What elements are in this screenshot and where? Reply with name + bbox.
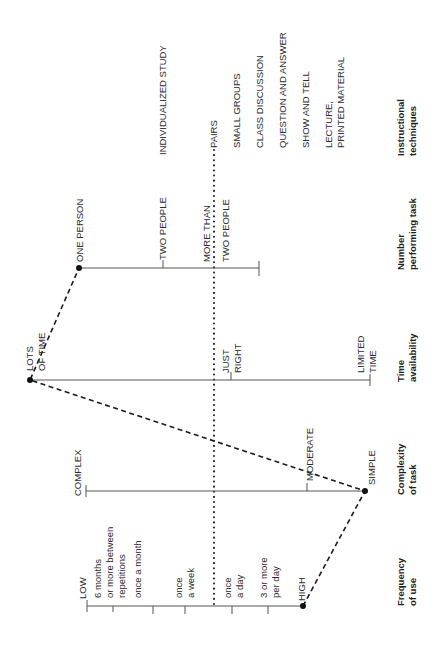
time-label-just-right: JUST RIGHT [220,343,243,373]
freq-label-once-a-week: once a week [173,568,196,598]
technique-pairs: PAIRS [208,120,219,148]
technique-class-discussion: CLASS DISCUSSION [254,55,265,148]
title-instructional-techniques: Instructional techniques [395,96,418,156]
technique-show-and-tell: SHOW AND TELL [300,71,311,148]
time-lots-marker [27,377,33,383]
freq-label-3-or-more: 3 or more per day [258,555,281,598]
freq-label-once-a-month: once a month [132,540,143,598]
complexity-axis: COMPLEX MODERATE SIMPLE [72,428,377,497]
complexity-label-complex: COMPLEX [72,449,83,496]
techniques-list: INDIVIDUALIZED STUDY PAIRS SMALL GROUPS … [157,32,346,155]
number-label-one-person: ONE PERSON [74,199,85,262]
frequency-high-marker [300,603,306,609]
number-axis: ONE PERSON TWO PEOPLE MORE THAN TWO PEOP… [74,197,259,276]
title-complexity-of-task: Complexity of task [395,441,418,495]
frequency-axis: LOW 6 months or more between repetitions… [77,524,307,614]
time-axis: LOTS OF TIME JUST RIGHT LIMITED TIME [24,333,378,386]
freq-label-low: LOW [77,577,88,599]
freq-label-6months: 6 months or more between repetitions [92,524,127,598]
freq-label-high: HIGH [296,577,307,601]
complexity-label-simple: SIMPLE [366,450,377,485]
number-label-more-than-two: MORE THAN TWO PEOPLE [201,199,231,262]
axis-titles: Instructional techniques Number performi… [395,96,418,606]
technique-question-and-answer: QUESTION AND ANSWER [277,32,288,148]
time-label-limited-time: LIMITED TIME [355,333,378,373]
complexity-simple-marker [362,488,368,494]
freq-label-once-a-day: once a day [222,575,245,598]
title-time-availability: Time availability [395,333,418,382]
complexity-label-moderate: MODERATE [304,428,315,481]
number-one-person-marker [76,265,82,271]
technique-small-groups: SMALL GROUPS [231,73,242,148]
time-label-lots-of-time: LOTS OF TIME [24,333,47,371]
title-frequency-of-use: Frequency of use [395,555,418,606]
technique-individualized-study: INDIVIDUALIZED STUDY [157,45,168,155]
number-label-two-people: TWO PEOPLE [157,197,168,260]
technique-lecture-printed-material: LECTURE, PRINTED MATERIAL [323,57,346,148]
instructional-technique-selection-diagram: LOW 6 months or more between repetitions… [0,0,437,654]
title-number-performing-task: Number performing task [395,197,418,270]
